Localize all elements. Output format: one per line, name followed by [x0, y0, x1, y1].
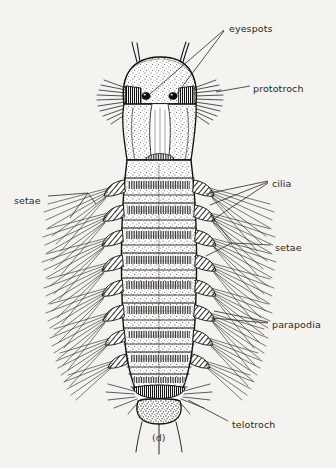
label-prototroch: prototroch	[253, 83, 304, 94]
neck-region	[123, 104, 196, 166]
larva-illustration	[0, 0, 336, 468]
label-cilia: cilia	[272, 178, 291, 189]
label-telotroch: telotroch	[232, 419, 275, 430]
label-eyespots: eyespots	[229, 23, 273, 34]
eyespot-right	[169, 93, 177, 100]
label-parapodia: parapodia	[272, 319, 321, 330]
larva-figure	[0, 0, 336, 468]
eyespot-left	[142, 93, 150, 100]
label-setae-right: setae	[275, 242, 302, 253]
label-setae-left: setae	[14, 195, 41, 206]
figure-caption: (d)	[152, 432, 165, 443]
pygidium	[137, 399, 181, 424]
